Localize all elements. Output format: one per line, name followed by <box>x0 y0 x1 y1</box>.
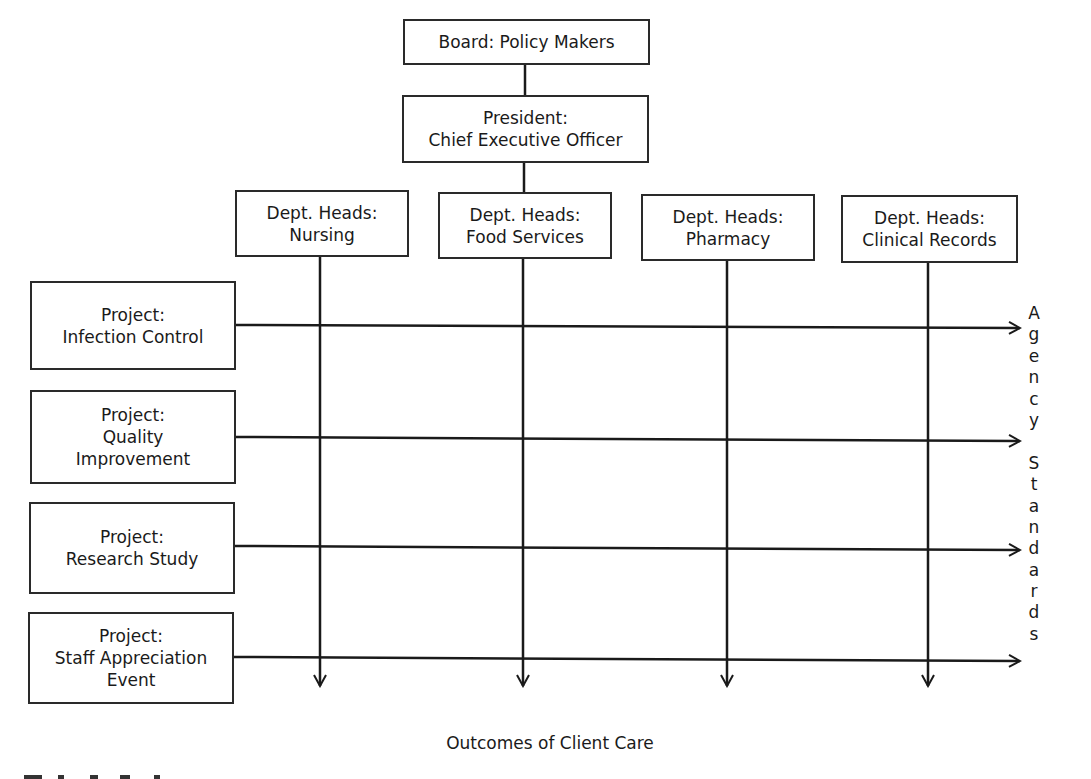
letter: c <box>1029 389 1038 410</box>
letter: g <box>1029 324 1040 345</box>
project-label: Project: <box>99 625 163 647</box>
dept-label: Dept. Heads: <box>470 204 581 226</box>
project-box-staff-appreciation: Project: Staff Appreciation Event <box>28 612 234 704</box>
dept-label: Dept. Heads: <box>673 206 784 228</box>
project-name-line1: Quality <box>103 426 164 448</box>
letter: n <box>1029 367 1040 388</box>
dept-name: Pharmacy <box>686 228 771 250</box>
project-box-quality-improvement: Project: Quality Improvement <box>30 390 236 484</box>
project-arrow-research-study <box>235 546 1020 550</box>
project-name: Infection Control <box>63 326 204 348</box>
figure-caption-clipped <box>24 773 324 779</box>
letter: a <box>1029 560 1039 581</box>
project-label: Project: <box>100 526 164 548</box>
project-name: Research Study <box>66 548 198 570</box>
dept-box-clinical-records: Dept. Heads: Clinical Records <box>841 195 1018 263</box>
project-arrow-quality-improvement <box>236 437 1020 441</box>
board-box: Board: Policy Makers <box>403 19 650 65</box>
outcomes-label: Outcomes of Client Care <box>410 733 690 753</box>
president-title: President: <box>483 107 568 129</box>
dept-box-nursing: Dept. Heads: Nursing <box>235 190 409 257</box>
project-label: Project: <box>101 404 165 426</box>
dept-label: Dept. Heads: <box>874 207 985 229</box>
dept-name: Clinical Records <box>862 229 996 251</box>
project-box-infection-control: Project: Infection Control <box>30 281 236 370</box>
project-label: Project: <box>101 304 165 326</box>
letter: r <box>1031 581 1038 602</box>
letter: d <box>1029 602 1040 623</box>
dept-name: Nursing <box>289 224 355 246</box>
dept-box-pharmacy: Dept. Heads: Pharmacy <box>641 194 815 261</box>
letter: A <box>1028 303 1040 324</box>
letter: a <box>1029 496 1039 517</box>
project-name-line2: Improvement <box>76 448 190 470</box>
project-box-research-study: Project: Research Study <box>29 502 235 594</box>
president-box: President: Chief Executive Officer <box>402 95 649 163</box>
letter: e <box>1029 346 1039 367</box>
board-label: Board: Policy Makers <box>438 31 614 53</box>
letter: S <box>1029 453 1040 474</box>
dept-label: Dept. Heads: <box>267 202 378 224</box>
dept-name: Food Services <box>466 226 584 248</box>
project-arrow-staff-appreciation <box>234 657 1020 661</box>
letter: n <box>1029 517 1040 538</box>
agency-standards-label: A g e n c y S t a n d a r d s <box>1023 303 1045 645</box>
letter: t <box>1031 474 1038 495</box>
letter: y <box>1029 410 1039 431</box>
project-name-line2: Event <box>107 669 156 691</box>
dept-box-food-services: Dept. Heads: Food Services <box>438 192 612 259</box>
project-arrow-infection-control <box>236 325 1020 328</box>
letter: s <box>1030 624 1039 645</box>
letter: d <box>1029 538 1040 559</box>
president-role: Chief Executive Officer <box>429 129 623 151</box>
project-name-line1: Staff Appreciation <box>55 647 207 669</box>
